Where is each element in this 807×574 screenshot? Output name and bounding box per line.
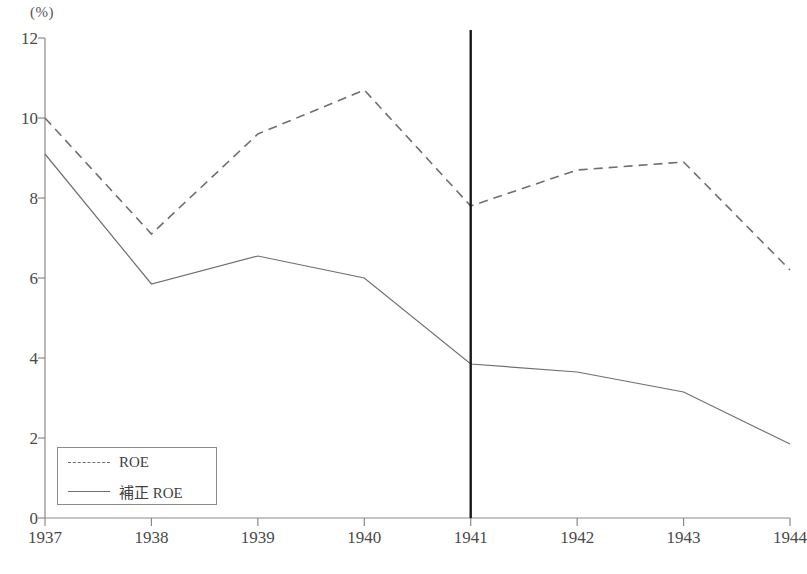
y-tick-label-2: 2 bbox=[10, 430, 38, 447]
x-tick-label-1939: 1939 bbox=[241, 528, 275, 548]
x-axis-ticks bbox=[45, 518, 790, 526]
axes bbox=[45, 38, 790, 518]
legend-item-adjusted-roe: 補正 ROE bbox=[58, 477, 216, 506]
x-tick-label-1943: 1943 bbox=[667, 528, 701, 548]
legend-swatch-solid-icon bbox=[68, 491, 110, 492]
y-axis-ticks bbox=[38, 38, 45, 518]
y-axis-tick-labels: 12 10 8 6 4 2 0 bbox=[0, 0, 38, 574]
y-tick-label-0: 0 bbox=[10, 510, 38, 527]
x-tick-label-1942: 1942 bbox=[560, 528, 594, 548]
legend-swatch-dashed-icon bbox=[68, 462, 110, 463]
legend-label-roe: ROE bbox=[119, 454, 149, 471]
chart-legend: ROE 補正 ROE bbox=[57, 447, 217, 505]
x-tick-label-1944: 1944 bbox=[773, 528, 807, 548]
series-line-adjusted-roe bbox=[45, 154, 790, 444]
y-tick-label-10: 10 bbox=[10, 110, 38, 127]
y-tick-label-8: 8 bbox=[10, 190, 38, 207]
y-tick-label-12: 12 bbox=[10, 30, 38, 47]
x-tick-label-1940: 1940 bbox=[347, 528, 381, 548]
x-tick-label-1938: 1938 bbox=[134, 528, 168, 548]
y-tick-label-4: 4 bbox=[10, 350, 38, 367]
x-tick-label-1941: 1941 bbox=[454, 528, 488, 548]
legend-label-adjusted-roe: 補正 ROE bbox=[119, 481, 183, 502]
y-tick-label-6: 6 bbox=[10, 270, 38, 287]
series-line-roe bbox=[45, 90, 790, 270]
chart-series-layer bbox=[45, 90, 790, 444]
legend-item-roe: ROE bbox=[58, 448, 216, 477]
x-tick-label-1937: 1937 bbox=[28, 528, 62, 548]
